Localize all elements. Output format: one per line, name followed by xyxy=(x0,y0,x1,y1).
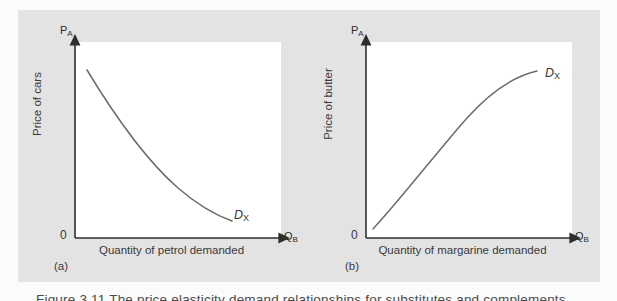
x-axis-tip-label-b: QB xyxy=(575,230,589,242)
chart-panel-a: PA QB 0 Price of cars Quantity of petrol… xyxy=(18,10,309,282)
demand-curve-b xyxy=(373,71,537,229)
x-axis-title-a: Quantity of petrol demanded xyxy=(64,244,279,256)
origin-label-a: 0 xyxy=(60,228,67,242)
demand-curve-symbol-a: D xyxy=(234,208,243,222)
x-axis-title-b: Quantity of margarine demanded xyxy=(355,244,570,256)
x-axis-tip-symbol-b: Q xyxy=(575,230,584,242)
x-axis-tip-subscript-b: B xyxy=(584,235,589,244)
y-axis-title-b: Price of butter xyxy=(322,44,334,164)
panel-letter-b: (b) xyxy=(345,260,359,272)
y-axis-title-a: Price of cars xyxy=(31,44,43,164)
origin-label-b: 0 xyxy=(351,228,358,242)
panel-letter-a: (a) xyxy=(54,260,68,272)
figure-container: PA QB 0 Price of cars Quantity of petrol… xyxy=(0,0,617,301)
y-axis-tip-subscript-b: A xyxy=(358,29,363,38)
x-axis-tip-symbol-a: Q xyxy=(284,230,293,242)
y-axis-tip-label-a: PA xyxy=(60,24,73,36)
figure-caption: Figure 3.11 The price elasticity demand … xyxy=(36,292,596,301)
demand-curve-symbol-b: D xyxy=(545,66,554,80)
demand-curve-subscript-b: X xyxy=(554,71,560,81)
y-axis-tip-label-b: PA xyxy=(351,24,364,36)
y-axis-tip-subscript-a: A xyxy=(67,29,72,38)
demand-curve-subscript-a: X xyxy=(243,213,249,223)
chart-panel-b: PA QB 0 Price of butter Quantity of marg… xyxy=(309,10,600,282)
demand-curve-label-b: DX xyxy=(545,66,560,80)
x-axis-tip-label-a: QB xyxy=(284,230,298,242)
demand-curve-a xyxy=(87,70,232,221)
demand-curve-label-a: DX xyxy=(234,208,249,222)
x-axis-tip-subscript-a: B xyxy=(293,235,298,244)
